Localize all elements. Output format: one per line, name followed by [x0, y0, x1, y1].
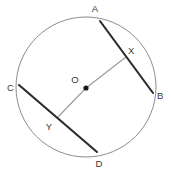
circle-geometry-diagram: A B C D O X Y — [0, 0, 171, 173]
radius-o-to-y — [57, 88, 86, 118]
geometry-figure: A B C D O X Y — [0, 0, 171, 173]
label-center-o: O — [71, 74, 79, 85]
label-point-a: A — [92, 3, 99, 14]
center-point-dot — [83, 85, 88, 90]
label-point-x: X — [128, 45, 135, 56]
label-point-b: B — [157, 90, 164, 101]
label-point-d: D — [95, 158, 102, 169]
label-point-c: C — [7, 82, 14, 93]
chord-cd — [19, 85, 97, 152]
chord-ab — [100, 21, 153, 93]
radius-o-to-x — [86, 57, 126, 88]
label-point-y: Y — [46, 121, 53, 132]
